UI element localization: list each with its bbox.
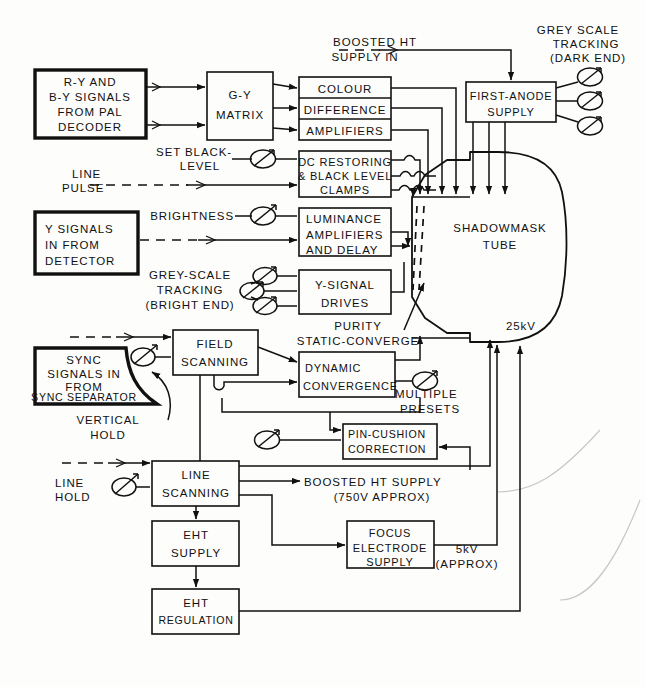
wire-amplifiers-to-tube: [391, 130, 428, 194]
block-diagram: R-Y AND B-Y SIGNALS FROM PAL DECODER Y S…: [0, 0, 645, 687]
control-grey-scale-dark-pot-1[interactable]: [556, 68, 603, 88]
sync-sep-line-2: SIGNALS IN: [47, 368, 121, 380]
field-scan-line-2: SCANNING: [181, 356, 249, 368]
beam-indicator-2: [419, 206, 424, 290]
ann-vertical-hold-2: HOLD: [90, 429, 126, 441]
control-pin-cushion-pot[interactable]: [255, 430, 280, 449]
wire-bus-to-pincushion: [330, 412, 341, 430]
wire-matrix-to-colour: [273, 84, 297, 88]
cda-line-amplifiers: AMPLIFIERS: [306, 125, 383, 137]
ann-grey-bright-2: TRACKING: [157, 284, 224, 296]
pincushion-line-2: CORRECTION: [348, 443, 426, 455]
pal-decoder-line-4: DECODER: [58, 121, 122, 133]
y-drives-line-1: Y-SIGNAL: [315, 279, 375, 291]
control-vertical-hold-pot[interactable]: [131, 345, 157, 366]
ann-focus-kv-2: (APPROX): [436, 558, 499, 570]
scan-artifact-2: [498, 430, 600, 492]
y-detector-line-2: IN FROM: [45, 239, 100, 251]
ann-grey-bright-3: (BRIGHT END): [145, 299, 234, 311]
luminance-line-3: AND DELAY: [306, 244, 378, 256]
first-anode-line-2: SUPPLY: [487, 106, 534, 118]
y-drives-line-2: DRIVES: [321, 297, 369, 309]
wire-y-drives-to-tube: [391, 262, 404, 292]
eht-supply-line-1: EHT: [183, 529, 209, 541]
wire-dcr-to-tube-3: [391, 186, 436, 191]
tube-label-line-1: SHADOWMASK: [453, 222, 546, 234]
ann-set-black-1: SET BLACK-: [156, 146, 232, 158]
control-grey-scale-bright-pot-3[interactable]: [253, 297, 277, 315]
wire-vertical-hold-curve: [152, 372, 170, 420]
ann-boosted-out-2: (750V APPROX): [334, 491, 431, 503]
field-scan-line-1: FIELD: [196, 338, 233, 350]
ann-purity-1: PURITY: [334, 320, 382, 332]
pincushion-line-1: PIN-CUSHION: [348, 428, 426, 440]
wire-dynamic-to-tube-a: [395, 356, 420, 360]
wire-field-hop: [214, 375, 297, 390]
sync-sep-line-1: SYNC: [66, 354, 102, 366]
ann-grey-dark-3: (DARK END): [550, 52, 626, 64]
cda-line-difference: DIFFERENCE: [304, 104, 386, 116]
ann-grey-dark-2: TRACKING: [553, 38, 620, 50]
scan-artifact: [560, 500, 640, 600]
ann-boosted-out-1: BOOSTED HT SUPPLY: [304, 476, 442, 488]
control-line-hold-pot[interactable]: [112, 474, 138, 496]
control-brightness-pot[interactable]: [251, 205, 277, 225]
ann-focus-kv-1: 5kV: [456, 543, 479, 555]
block-eht-supply: [152, 521, 239, 566]
wire-purity-pointer: [404, 283, 424, 330]
focus-line-1: FOCUS: [369, 527, 412, 539]
g-y-matrix-line-1: G-Y: [228, 89, 251, 101]
luminance-line-1: LUMINANCE: [306, 213, 382, 225]
ann-vertical-hold-1: VERTICAL: [76, 414, 139, 426]
block-field-scanning: [173, 330, 258, 375]
luminance-line-2: AMPLIFIERS: [306, 229, 383, 241]
dyn-conv-line-2: CONVERGENCE: [303, 380, 398, 392]
ann-line-pulse-1: LINE: [72, 168, 101, 180]
ann-set-black-2: LEVEL: [180, 160, 220, 172]
ann-boosted-ht-in-1: BOOSTED HT: [333, 36, 417, 48]
block-line-scanning: [152, 461, 239, 506]
diagram-canvas: R-Y AND B-Y SIGNALS FROM PAL DECODER Y S…: [0, 0, 645, 687]
block-g-y-matrix: [207, 72, 273, 140]
eht-supply-line-2: SUPPLY: [171, 547, 221, 559]
control-grey-scale-dark-pot-3[interactable]: [556, 115, 603, 135]
wire-field-lower-bus: [222, 398, 420, 412]
control-set-black-level-pot[interactable]: [251, 150, 276, 168]
ann-line-pulse-2: PULSE: [62, 182, 104, 194]
wire-difference-to-tube: [391, 108, 442, 194]
sync-sep-line-4: SYNC SEPARATOR: [31, 391, 137, 403]
line-scan-line-2: SCANNING: [162, 487, 230, 499]
g-y-matrix-line-2: MATRIX: [216, 109, 264, 121]
cda-line-colour: COLOUR: [318, 83, 373, 95]
eht-reg-line-1: EHT: [183, 597, 209, 609]
pal-decoder-line-1: R-Y AND: [64, 76, 117, 88]
control-grey-scale-dark-pot-2[interactable]: [556, 92, 603, 110]
dcr-line-2: & BLACK LEVEL: [298, 170, 392, 182]
ann-grey-bright-1: GREY-SCALE: [149, 269, 231, 281]
line-scan-line-1: LINE: [181, 469, 210, 481]
ann-purity-2: STATIC-CONVERGE: [297, 335, 419, 347]
ann-brightness: BRIGHTNESS: [150, 210, 234, 222]
wire-boosted-ht-in: [379, 50, 511, 80]
pal-decoder-line-3: FROM PAL: [57, 106, 122, 118]
tube-label-line-2: TUBE: [483, 239, 517, 251]
wire-dcr-to-tube-1: [391, 156, 420, 195]
focus-line-3: SUPPLY: [366, 556, 413, 568]
control-grey-scale-bright-pot-1[interactable]: [253, 267, 277, 285]
wire-matrix-to-amplifiers: [273, 128, 297, 130]
ann-line-hold-2: HOLD: [55, 491, 91, 503]
ann-presets-2: PRESETS: [400, 403, 460, 415]
ann-grey-dark-1: GREY SCALE: [537, 24, 619, 36]
wire-line-to-focus: [239, 495, 345, 545]
focus-line-2: ELECTRODE: [353, 542, 427, 554]
block-eht-regulation: [152, 589, 239, 634]
first-anode-line-1: FIRST-ANODE: [470, 90, 553, 102]
dyn-conv-line-1: DYNAMIC: [305, 362, 361, 374]
ann-boosted-ht-in-2: SUPPLY IN: [331, 51, 398, 63]
dcr-line-1: DC RESTORING: [298, 156, 392, 168]
wire-focus-to-tube-5kv: [434, 345, 497, 545]
eht-reg-line-2: REGULATION: [158, 614, 233, 626]
wire-field-to-dynamic: [258, 347, 297, 362]
ann-presets-1: MULTIPLE: [395, 388, 458, 400]
pal-decoder-line-2: B-Y SIGNALS: [49, 91, 131, 103]
